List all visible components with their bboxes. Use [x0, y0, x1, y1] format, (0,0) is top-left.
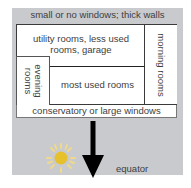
- utility-rooms-label: utility rooms, less used rooms, garage: [17, 33, 145, 55]
- utility-label-line1: utility rooms, less used: [33, 33, 129, 44]
- morning-rooms-area: morning rooms: [145, 25, 177, 104]
- utility-label-line2: rooms, garage: [50, 44, 111, 55]
- evening-label-line2: rooms: [23, 68, 34, 94]
- conservatory-label: conservatory or large windows: [17, 106, 176, 116]
- sun-icon: [46, 143, 76, 173]
- equator-label: equator: [116, 163, 148, 174]
- arrow-down-icon: [82, 121, 104, 179]
- morning-rooms-label: morning rooms: [156, 33, 166, 96]
- conservatory-strip: conservatory or large windows: [16, 105, 177, 118]
- evening-rooms-label: evening rooms: [23, 64, 43, 97]
- house-floorplan: utility rooms, less used rooms, garage m…: [16, 24, 177, 105]
- north-wall-label: small or no windows; thick walls: [12, 10, 183, 20]
- evening-label-line1: evening: [33, 64, 44, 97]
- evening-rooms-area: evening rooms: [16, 56, 50, 105]
- diagram-panel: small or no windows; thick walls utility…: [12, 8, 183, 175]
- most-used-rooms-area: most used rooms: [50, 67, 145, 104]
- most-used-rooms-label: most used rooms: [50, 80, 145, 90]
